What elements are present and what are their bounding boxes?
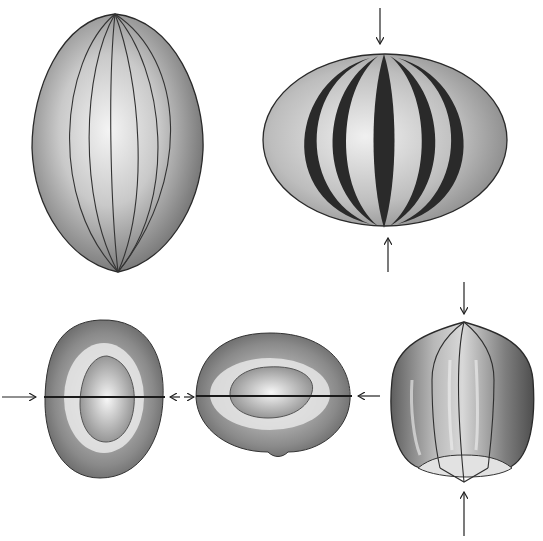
prolate-ribbed-ellipsoid [32, 14, 203, 272]
compressed-ribbed-body [391, 282, 534, 536]
diagram-canvas [0, 0, 543, 541]
cross-section-vertical-oval [2, 320, 180, 478]
cross-section-horizontal-oval [184, 333, 380, 457]
oblate-striped-ellipsoid [263, 8, 507, 272]
